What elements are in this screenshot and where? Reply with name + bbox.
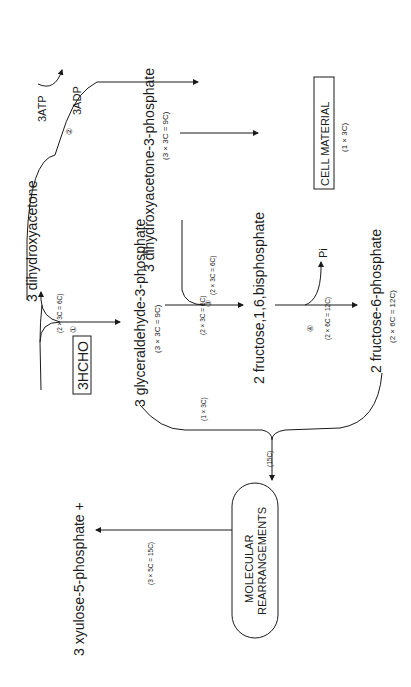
xylulose-count: (3 × 5C = 15C)	[147, 542, 155, 585]
f6p-count-label: (2 × 6C = 12C)	[388, 290, 397, 343]
step-1-marker: ①	[69, 326, 78, 333]
fbp-label: 2 fructose,1,6,bisphosphate	[251, 212, 267, 384]
gap-branch-count: (1 × 3C)	[200, 397, 208, 421]
dhap-to-fbp-count: (2 × 3C = 6C)	[209, 256, 217, 295]
gap-count-label: (3 × 3C = 9C)	[153, 304, 162, 353]
pathway-diagram: 3 dihydroxyacetone 3 xyulose-5-phosphate…	[0, 0, 411, 687]
pi-label: Pi	[317, 248, 329, 258]
step-4-marker: ④	[306, 325, 315, 332]
xylulose-label: 3 xyulose-5-phosphate +	[71, 502, 87, 656]
dhap-join-curve	[182, 220, 205, 305]
adp-label: 3ADP	[71, 86, 83, 115]
split-count-label: (2 × 3C = 6C)	[56, 294, 64, 333]
f6p-branch-curve	[272, 373, 382, 440]
merge-count: (15C)	[266, 451, 274, 467]
pi-arrow	[305, 262, 321, 305]
hcho-label: 3HCHO	[75, 341, 91, 390]
hcho-to-dha-arrow	[40, 305, 42, 342]
dhap-label: 3 dihydroxyacetone-3-phosphate	[141, 68, 157, 272]
cell-material-count: (1 × 3C)	[340, 123, 349, 152]
molecular-label-2: REARRANGEMENTS	[256, 507, 268, 615]
dihydroxyacetone-line	[27, 82, 198, 300]
atp-adp-arrow	[38, 70, 62, 86]
fbp-to-f6p-count: (2 × 6C = 12C)	[324, 297, 332, 340]
molecular-rearrangements-box	[232, 483, 278, 638]
dihydroxyacetone-label: 3 dihydroxyacetone	[24, 180, 40, 302]
molecular-label-1: MOLECULAR	[243, 534, 255, 603]
dhap-count-label: (3 × 3C = 9C)	[161, 111, 170, 160]
cell-material-label: CELL MATERIAL	[319, 102, 331, 186]
atp-label: 3ATP	[36, 95, 48, 122]
gap-to-fbp-count: (2 × 3C = 6C)	[199, 296, 207, 335]
step-2-atp-marker: ②	[65, 128, 74, 135]
f6p-label: 2 fructose-6-phosphate	[368, 229, 384, 373]
